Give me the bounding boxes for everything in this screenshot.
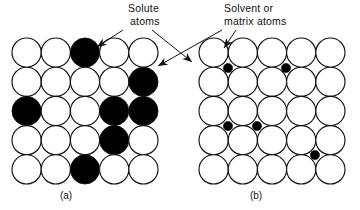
- interstitial-solute-dot: [252, 121, 261, 130]
- solute-atom-circle: [129, 96, 158, 125]
- matrix-atom-circle: [70, 67, 99, 96]
- arrowhead-icon: [182, 53, 194, 65]
- matrix-atom-circle: [199, 126, 228, 155]
- matrix-atom-circle: [228, 67, 257, 96]
- matrix-atom-circle: [287, 96, 316, 125]
- solute-atom-circle: [70, 38, 99, 67]
- interstitial-solute-dot: [223, 121, 232, 130]
- matrix-atom-circle: [70, 96, 99, 125]
- matrix-atom-circle: [100, 155, 129, 184]
- interstitial-solute-dot: [223, 63, 232, 72]
- matrix-atom-circle: [257, 38, 286, 67]
- matrix-atom-circle: [129, 155, 158, 184]
- panel-b-caption: (b): [250, 190, 262, 201]
- matrix-atom-circle: [129, 126, 158, 155]
- figure-substitutional-interstitial-solid-solution: Solute atoms Solvent or matrix atoms (a)…: [0, 0, 360, 210]
- panel-a-caption: (a): [60, 190, 72, 201]
- panel-a: [12, 38, 158, 184]
- matrix-atom-circle: [12, 38, 41, 67]
- matrix-atom-circle: [257, 155, 286, 184]
- matrix-atom-circle: [41, 126, 70, 155]
- matrix-atom-circle: [199, 96, 228, 125]
- matrix-atom-circle: [41, 155, 70, 184]
- solvent-label-line2: matrix atoms: [224, 15, 287, 27]
- matrix-atom-circle: [12, 155, 41, 184]
- matrix-atom-circle: [228, 96, 257, 125]
- matrix-atom-circle: [70, 126, 99, 155]
- matrix-atom-circle: [41, 38, 70, 67]
- matrix-atom-circle: [12, 67, 41, 96]
- matrix-atom-circle: [316, 126, 345, 155]
- matrix-atom-circle: [228, 155, 257, 184]
- matrix-atom-circle: [257, 67, 286, 96]
- solvent-label-line1: Solvent or: [224, 2, 274, 14]
- matrix-atom-circle: [316, 155, 345, 184]
- solute-atom-circle: [100, 126, 129, 155]
- interstitial-solute-dot: [281, 63, 290, 72]
- matrix-atom-circle: [199, 155, 228, 184]
- matrix-atom-circle: [316, 96, 345, 125]
- matrix-atom-circle: [228, 38, 257, 67]
- matrix-atom-circle: [287, 67, 316, 96]
- matrix-atom-circle: [228, 126, 257, 155]
- solute-atom-circle: [129, 67, 158, 96]
- interstitial-solute-dot: [310, 150, 319, 159]
- matrix-atom-circle: [316, 67, 345, 96]
- matrix-atom-circle: [129, 38, 158, 67]
- matrix-atom-circle: [316, 38, 345, 67]
- solute-label-line1: Solute: [128, 2, 159, 14]
- solute-atom-circle: [70, 155, 99, 184]
- solute-label-line2: atoms: [130, 15, 160, 27]
- solute-to-panel-b-cross: [152, 30, 194, 65]
- matrix-atom-circle: [287, 155, 316, 184]
- panel-b: [199, 38, 345, 184]
- leader-line: [152, 30, 192, 62]
- figure-canvas: Solute atoms Solvent or matrix atoms (a)…: [0, 0, 360, 210]
- matrix-atom-circle: [12, 126, 41, 155]
- solute-atom-circle: [12, 96, 41, 125]
- matrix-atom-circle: [41, 67, 70, 96]
- matrix-atom-circle: [257, 126, 286, 155]
- matrix-atom-circle: [100, 67, 129, 96]
- matrix-atom-circle: [287, 38, 316, 67]
- matrix-atom-circle: [199, 38, 228, 67]
- arrowhead-icon: [156, 58, 168, 69]
- matrix-atom-circle: [41, 96, 70, 125]
- solute-atom-circle: [100, 96, 129, 125]
- panels-layer: [12, 38, 345, 184]
- matrix-atom-circle: [257, 96, 286, 125]
- matrix-atom-circle: [199, 67, 228, 96]
- matrix-atom-circle: [287, 126, 316, 155]
